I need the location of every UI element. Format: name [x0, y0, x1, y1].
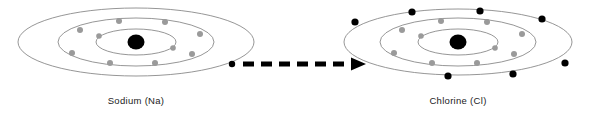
electron: [107, 60, 113, 66]
electron: [96, 33, 102, 39]
chlorine-label: Chlorine (Cl): [429, 95, 486, 106]
electron: [444, 72, 451, 79]
electron: [408, 8, 415, 15]
transferring-electron-dot: [229, 61, 235, 67]
electron: [538, 15, 545, 22]
electron: [474, 60, 480, 66]
atom-sodium: Sodium (Na): [18, 8, 254, 106]
electron: [492, 45, 498, 51]
chlorine-nucleus: [450, 35, 467, 50]
electron: [69, 50, 75, 56]
electron: [511, 51, 517, 57]
electron: [561, 59, 568, 66]
electron: [476, 7, 483, 14]
arrow-head-icon: [351, 58, 366, 71]
electron: [418, 33, 424, 39]
electron: [189, 51, 195, 57]
electron: [162, 19, 168, 25]
electron: [519, 31, 525, 37]
electron: [77, 27, 83, 33]
sodium-nucleus: [128, 35, 145, 50]
sodium-label: Sodium (Na): [108, 95, 165, 106]
atom-chlorine: Chlorine (Cl): [344, 7, 572, 106]
electron: [391, 50, 397, 56]
electron: [484, 19, 490, 25]
diagram-canvas: Sodium (Na): [0, 0, 604, 117]
electron: [399, 27, 405, 33]
electron: [197, 31, 203, 37]
atom-transfer-diagram: Sodium (Na): [0, 0, 604, 117]
electron: [351, 18, 358, 25]
electron: [116, 18, 122, 24]
electron-transfer-arrow: [229, 58, 366, 71]
electron: [152, 60, 158, 66]
electron: [170, 45, 176, 51]
electron: [429, 60, 435, 66]
electron: [438, 18, 444, 24]
electron: [509, 70, 516, 77]
